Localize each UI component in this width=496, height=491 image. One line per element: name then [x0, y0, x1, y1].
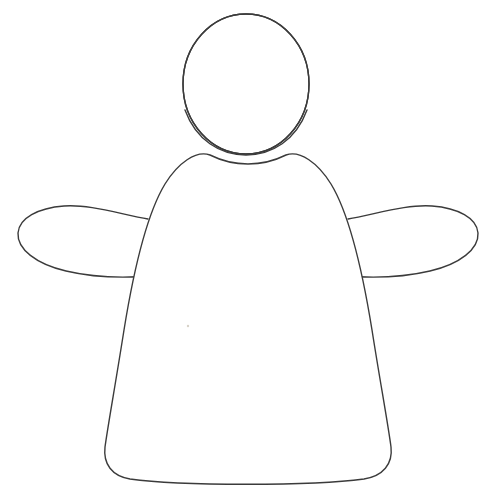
figure-svg [0, 0, 496, 491]
drawing-canvas [0, 0, 496, 491]
paper-speck [187, 325, 189, 327]
